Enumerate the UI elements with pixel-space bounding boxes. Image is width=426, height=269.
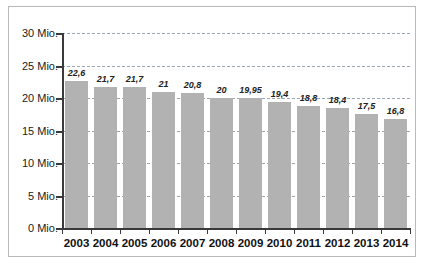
bar-2004 <box>94 87 117 228</box>
x-tick <box>236 229 237 234</box>
chart-page: 0 Mio.5 Mio.10 Mio.15 Mio.20 Mio.25 Mio.… <box>0 0 426 269</box>
bar-value-label-2013: 17,5 <box>358 101 376 111</box>
x-axis-label-2003: 2003 <box>64 237 90 249</box>
gridline-25 <box>62 66 410 67</box>
y-axis-tick-label: 20 Mio. <box>6 92 58 104</box>
bar-2012 <box>326 108 349 228</box>
y-tick-30 <box>56 33 64 35</box>
y-tick-15 <box>56 131 64 133</box>
bar-2003 <box>65 81 88 228</box>
bar-value-label-2011: 18,8 <box>300 93 318 103</box>
y-tick-20 <box>56 98 64 100</box>
y-axis-tick-label: 10 Mio. <box>6 157 58 169</box>
x-axis-label-2013: 2013 <box>354 237 380 249</box>
x-axis-label-2009: 2009 <box>238 237 264 249</box>
bar-2014 <box>384 119 407 228</box>
bar-value-label-2004: 21,7 <box>97 74 115 84</box>
x-tick <box>178 229 179 234</box>
y-tick-5 <box>56 196 64 198</box>
x-axis-label-2008: 2008 <box>209 237 235 249</box>
bar-2013 <box>355 114 378 228</box>
y-axis-tick-label: 15 Mio. <box>6 125 58 137</box>
bar-value-label-2006: 21 <box>158 79 168 89</box>
plot-area: 22,621,721,72120,82019,9519,418,818,417,… <box>62 33 410 228</box>
x-axis-label-2004: 2004 <box>93 237 119 249</box>
bar-value-label-2005: 21,7 <box>126 74 144 84</box>
x-tick <box>149 229 150 234</box>
x-tick <box>62 229 63 234</box>
bar-2006 <box>152 92 175 229</box>
y-tick-25 <box>56 66 64 68</box>
x-axis-label-2014: 2014 <box>383 237 409 249</box>
bar-2011 <box>297 106 320 228</box>
gridline-30 <box>62 33 410 34</box>
x-axis-label-2005: 2005 <box>122 237 148 249</box>
bar-2008 <box>210 98 233 228</box>
x-tick <box>352 229 353 234</box>
y-axis-labels: 0 Mio.5 Mio.10 Mio.15 Mio.20 Mio.25 Mio.… <box>0 0 58 269</box>
y-axis-tick-label: 5 Mio. <box>6 190 58 202</box>
x-tick <box>207 229 208 234</box>
bar-value-label-2010: 19,4 <box>271 89 289 99</box>
bar-2005 <box>123 87 146 228</box>
x-tick <box>323 229 324 234</box>
x-axis-label-2011: 2011 <box>296 237 321 249</box>
bar-value-label-2009: 19,95 <box>239 85 262 95</box>
bar-chart: 0 Mio.5 Mio.10 Mio.15 Mio.20 Mio.25 Mio.… <box>0 0 426 269</box>
bar-value-label-2012: 18,4 <box>329 95 347 105</box>
y-tick-10 <box>56 163 64 165</box>
y-axis-tick-label: 30 Mio. <box>6 27 58 39</box>
x-axis-label-2010: 2010 <box>267 237 293 249</box>
bar-value-label-2003: 22,6 <box>68 68 86 78</box>
y-axis-tick-label: 25 Mio. <box>6 60 58 72</box>
bar-value-label-2008: 20 <box>216 85 226 95</box>
x-tick <box>91 229 92 234</box>
y-axis-tick-label: 0 Mio. <box>6 222 58 234</box>
x-axis-label-2012: 2012 <box>325 237 351 249</box>
x-axis-label-2007: 2007 <box>180 237 206 249</box>
bar-2009 <box>239 98 262 228</box>
x-tick <box>381 229 382 234</box>
x-tick <box>120 229 121 234</box>
x-tick <box>294 229 295 234</box>
bar-value-label-2014: 16,8 <box>387 106 405 116</box>
x-tick <box>410 229 411 234</box>
bar-2010 <box>268 102 291 228</box>
bar-value-label-2007: 20,8 <box>184 80 202 90</box>
x-axis-label-2006: 2006 <box>151 237 177 249</box>
bar-2007 <box>181 93 204 228</box>
x-tick <box>265 229 266 234</box>
